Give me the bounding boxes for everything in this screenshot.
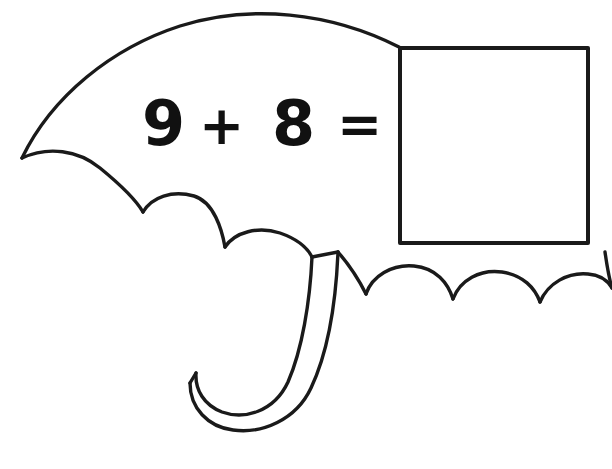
worksheet-page: 9 + 8 = — [0, 0, 612, 469]
equation-addend-1: 9 — [142, 93, 185, 155]
equation-addend-2: 8 — [272, 93, 315, 155]
equation-plus-operator: + — [199, 99, 244, 153]
answer-box[interactable] — [400, 48, 588, 243]
equation-equals-sign: = — [337, 98, 382, 152]
